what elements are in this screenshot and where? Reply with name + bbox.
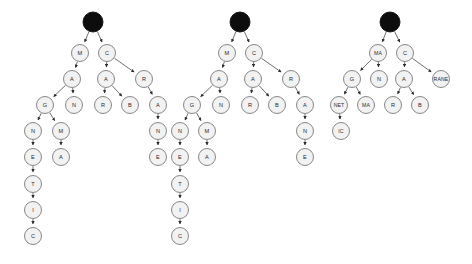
tree-node[interactable]: R bbox=[242, 97, 259, 114]
tree-edge bbox=[85, 32, 89, 42]
tree-node[interactable]: IC bbox=[333, 123, 350, 140]
tree-edge bbox=[201, 85, 213, 96]
node-circle bbox=[283, 71, 300, 88]
node-circle bbox=[396, 71, 413, 88]
node-circle bbox=[370, 45, 387, 62]
tree-node[interactable]: N bbox=[213, 97, 230, 114]
tree-root-node[interactable] bbox=[380, 12, 400, 32]
node-circle bbox=[331, 97, 348, 114]
tree-node[interactable]: T bbox=[25, 176, 42, 193]
tree-edge bbox=[38, 113, 41, 120]
tree-node[interactable]: C bbox=[246, 45, 263, 62]
tree-node[interactable]: RANE bbox=[433, 71, 450, 88]
tree-edge bbox=[344, 87, 348, 94]
tree-node[interactable]: M bbox=[53, 123, 70, 140]
tree-node[interactable]: B bbox=[412, 97, 429, 114]
tree-3-nodes: MACGNARANENETMARBIC bbox=[331, 12, 450, 140]
tree-node[interactable]: A bbox=[53, 149, 70, 166]
tree-edge bbox=[361, 59, 372, 70]
tree-node[interactable]: A bbox=[64, 71, 81, 88]
tree-node[interactable]: N bbox=[371, 71, 388, 88]
tree-node[interactable]: R bbox=[385, 97, 402, 114]
tree-1-edges bbox=[33, 32, 158, 224]
tree-node[interactable]: A bbox=[150, 97, 167, 114]
root-circle bbox=[380, 12, 400, 32]
tree-node[interactable]: MA bbox=[358, 97, 375, 114]
tree-edge bbox=[114, 58, 134, 72]
edges-layer bbox=[33, 32, 431, 224]
tree-node[interactable]: N bbox=[297, 123, 314, 140]
tree-edge bbox=[412, 58, 431, 72]
tree-root-node[interactable] bbox=[230, 12, 250, 32]
tree-node[interactable]: C bbox=[25, 228, 42, 245]
tree-node[interactable]: N bbox=[150, 123, 167, 140]
tree-node[interactable]: A bbox=[245, 71, 262, 88]
node-circle bbox=[172, 176, 189, 193]
node-circle bbox=[246, 45, 263, 62]
node-circle bbox=[172, 149, 189, 166]
tree-node[interactable]: G bbox=[344, 71, 361, 88]
node-circle bbox=[397, 45, 414, 62]
tree-edge bbox=[76, 62, 78, 68]
tree-edge bbox=[50, 113, 55, 121]
tree-edge bbox=[295, 87, 299, 94]
tree-1-nodes: MCAARGNRBANMNEAETIC bbox=[25, 12, 167, 245]
tree-root-node[interactable] bbox=[83, 12, 103, 32]
tree-edge bbox=[232, 32, 236, 42]
tree-node[interactable]: C bbox=[172, 228, 189, 245]
tree-edge bbox=[398, 87, 401, 93]
tree-node[interactable]: A bbox=[297, 97, 314, 114]
node-circle bbox=[53, 149, 70, 166]
tree-edge bbox=[259, 86, 269, 96]
tree-node[interactable]: N bbox=[172, 123, 189, 140]
tree-node[interactable]: M bbox=[219, 45, 236, 62]
tree-node[interactable]: R bbox=[95, 97, 112, 114]
tree-node[interactable]: A bbox=[199, 149, 216, 166]
tree-edge bbox=[104, 88, 105, 93]
tree-node[interactable]: N bbox=[66, 97, 83, 114]
tree-node[interactable]: NET bbox=[331, 97, 348, 114]
node-circle bbox=[242, 97, 259, 114]
tree-node[interactable]: E bbox=[297, 149, 314, 166]
nodes-layer: MCAARGNRBANMNEAETICMCAARGNRBANMNEAETICMA… bbox=[25, 12, 450, 245]
node-circle bbox=[136, 71, 153, 88]
node-circle bbox=[98, 71, 115, 88]
tree-node[interactable]: B bbox=[122, 97, 139, 114]
tree-node[interactable]: MA bbox=[370, 45, 387, 62]
node-circle bbox=[344, 71, 361, 88]
tree-diagram-svg: MCAARGNRBANMNEAETICMCAARGNRBANMNEAETICMA… bbox=[0, 0, 472, 264]
tree-node[interactable]: T bbox=[172, 176, 189, 193]
node-circle bbox=[333, 123, 350, 140]
node-circle bbox=[297, 149, 314, 166]
tree-node[interactable]: A bbox=[211, 71, 228, 88]
tree-node[interactable]: N bbox=[25, 123, 42, 140]
node-circle bbox=[25, 202, 42, 219]
tree-node[interactable]: A bbox=[98, 71, 115, 88]
node-circle bbox=[433, 71, 450, 88]
node-circle bbox=[37, 97, 54, 114]
tree-node[interactable]: B bbox=[269, 97, 286, 114]
tree-edge bbox=[97, 32, 102, 42]
node-circle bbox=[25, 149, 42, 166]
node-circle bbox=[371, 71, 388, 88]
tree-node[interactable]: I bbox=[25, 202, 42, 219]
tree-edge bbox=[112, 86, 122, 96]
tree-node[interactable]: E bbox=[172, 149, 189, 166]
tree-edge bbox=[223, 62, 225, 68]
tree-node[interactable]: M bbox=[199, 123, 216, 140]
node-circle bbox=[213, 97, 230, 114]
tree-node[interactable]: E bbox=[25, 149, 42, 166]
tree-node[interactable]: G bbox=[37, 97, 54, 114]
tree-node[interactable]: M bbox=[72, 45, 89, 62]
tree-node[interactable]: C bbox=[99, 45, 116, 62]
node-circle bbox=[184, 97, 201, 114]
tree-node[interactable]: R bbox=[283, 71, 300, 88]
tree-node[interactable]: G bbox=[184, 97, 201, 114]
tree-node[interactable]: C bbox=[397, 45, 414, 62]
tree-node[interactable]: A bbox=[396, 71, 413, 88]
tree-node[interactable]: E bbox=[150, 149, 167, 166]
tree-node[interactable]: R bbox=[136, 71, 153, 88]
tree-node[interactable]: I bbox=[172, 202, 189, 219]
node-circle bbox=[211, 71, 228, 88]
tree-edge bbox=[409, 87, 414, 95]
